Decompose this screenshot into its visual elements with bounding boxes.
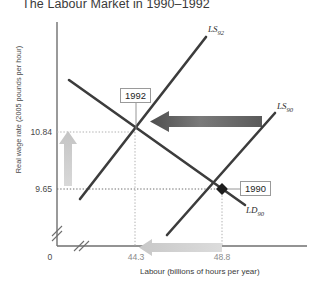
labour-fall-arrow xyxy=(139,239,222,256)
curve-label-ls90-text: LS xyxy=(277,101,287,111)
curve-label-ls90-sub: 90 xyxy=(287,106,294,113)
equilibrium-box-1992: 1992 xyxy=(120,88,151,103)
supply-shift-arrow xyxy=(150,111,262,132)
equilibrium-box-1990: 1990 xyxy=(240,181,271,196)
wage-rise-arrow xyxy=(59,131,77,186)
guide-lines xyxy=(57,132,222,246)
labour-market-figure: The Labour Market in 1990–1992 Real wage… xyxy=(0,0,310,293)
curve-label-ls90: LS90 xyxy=(277,101,293,113)
curve-label-ld90-text: LD xyxy=(246,205,258,215)
curve-label-ld90: LD90 xyxy=(246,205,264,217)
curve-label-ls92: LS92 xyxy=(208,24,224,36)
chart-canvas xyxy=(0,0,310,293)
curve-label-ld90-sub: 90 xyxy=(258,210,265,217)
curve-label-ls92-sub: 92 xyxy=(218,29,225,36)
curve-label-ls92-text: LS xyxy=(208,24,218,34)
axis-lines xyxy=(57,22,307,246)
